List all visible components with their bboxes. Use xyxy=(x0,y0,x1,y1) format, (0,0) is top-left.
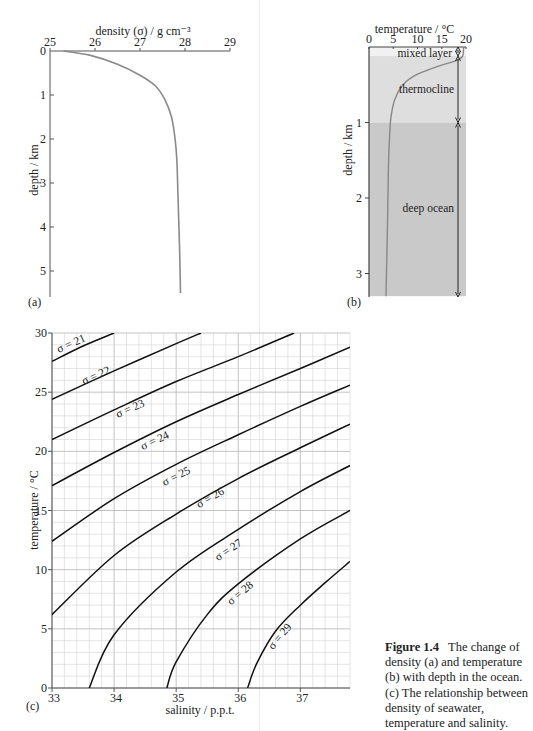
y-tick-label: 30 xyxy=(35,326,47,340)
y-axis-title: temperature / °C xyxy=(27,470,41,549)
contour-label: σ = 23 xyxy=(114,397,146,420)
contour-label: σ = 29 xyxy=(265,621,294,652)
x-axis-title: salinity / p.p.t. xyxy=(166,703,235,717)
y-tick-label: 0 xyxy=(41,681,47,695)
contour-label: σ = 27 xyxy=(212,536,244,563)
temperature-salinity-density-chart: 0510152025303334353637salinity / p.p.t.t… xyxy=(0,0,533,731)
y-tick-label: 25 xyxy=(35,385,47,399)
x-tick-label: 37 xyxy=(296,691,308,705)
x-tick-label: 36 xyxy=(234,691,246,705)
y-tick-label: 20 xyxy=(35,444,47,458)
y-tick-label: 10 xyxy=(35,563,47,577)
figure-label: Figure 1.4 xyxy=(385,640,439,654)
contour-label: σ = 26 xyxy=(194,485,226,510)
x-tick-label: 33 xyxy=(48,691,60,705)
contour-label: σ = 22 xyxy=(80,363,112,386)
figure-caption: Figure 1.4 The change of density (a) and… xyxy=(385,640,533,731)
x-tick-label: 34 xyxy=(110,691,122,705)
y-tick-label: 5 xyxy=(41,622,47,636)
panel-label: (c) xyxy=(26,699,39,713)
